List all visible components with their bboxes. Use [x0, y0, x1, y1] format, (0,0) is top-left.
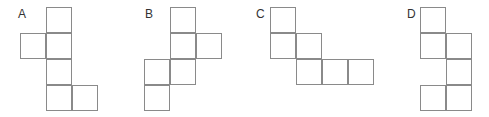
net-square	[270, 7, 296, 33]
net-square	[322, 59, 348, 85]
net-square	[46, 33, 72, 59]
net-square	[420, 7, 446, 33]
net-square	[420, 85, 446, 111]
net-square	[20, 33, 46, 59]
net-square	[144, 59, 170, 85]
figure-label-d: D	[407, 8, 416, 20]
net-square	[170, 59, 196, 85]
net-square	[446, 59, 472, 85]
net-square	[170, 33, 196, 59]
figure-label-b: B	[145, 8, 153, 20]
net-square	[46, 59, 72, 85]
net-square	[46, 7, 72, 33]
net-square	[296, 33, 322, 59]
net-square	[46, 85, 72, 111]
net-square	[170, 7, 196, 33]
net-square	[446, 85, 472, 111]
net-square	[446, 33, 472, 59]
net-square	[296, 59, 322, 85]
figure-label-a: A	[18, 8, 26, 20]
net-square	[348, 59, 374, 85]
net-square	[72, 85, 98, 111]
figure-label-c: C	[256, 8, 265, 20]
net-square	[270, 33, 296, 59]
net-square	[196, 33, 222, 59]
net-square	[420, 33, 446, 59]
net-square	[144, 85, 170, 111]
